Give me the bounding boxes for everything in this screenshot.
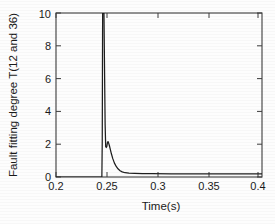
- y-tick-labels: 0 2 4 6 8 10: [39, 8, 51, 184]
- y-tick-label: 0: [45, 171, 51, 183]
- y-tick-label: 8: [45, 40, 51, 52]
- x-axis-ticks: [56, 13, 258, 177]
- plot-frame: [56, 13, 262, 177]
- y-axis-title: Fault fitting degree T(12 and 36): [7, 13, 19, 177]
- x-tick-label: 0.25: [96, 180, 117, 192]
- x-tick-label: 0.4: [250, 180, 265, 192]
- x-tick-labels: 0.2 0.25 0.3 0.35 0.4: [48, 180, 265, 192]
- x-axis-title: Time(s): [142, 200, 181, 212]
- y-axis-ticks: [56, 13, 262, 177]
- x-tick-label: 0.3: [150, 180, 165, 192]
- data-series-line: [56, 13, 262, 177]
- y-tick-label: 4: [45, 105, 51, 117]
- y-tick-label: 6: [45, 73, 51, 85]
- line-chart: 0.2 0.25 0.3 0.35 0.4 0 2 4 6 8 10 Time(…: [0, 0, 275, 224]
- y-tick-label: 2: [45, 138, 51, 150]
- x-tick-label: 0.35: [198, 180, 219, 192]
- figure-container: 0.2 0.25 0.3 0.35 0.4 0 2 4 6 8 10 Time(…: [0, 0, 275, 224]
- y-tick-label: 10: [39, 8, 51, 20]
